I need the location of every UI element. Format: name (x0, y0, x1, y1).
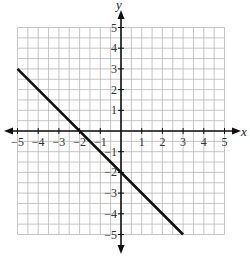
y-tick-label: 3 (111, 62, 117, 76)
x-tick-label: 5 (222, 135, 228, 149)
x-tick-label: 2 (159, 135, 165, 149)
x-axis-label: x (240, 124, 247, 139)
x-tick-label: −3 (53, 135, 66, 149)
y-tick-label: −4 (104, 207, 117, 221)
x-tick-label: 3 (180, 135, 186, 149)
x-axis-arrow-left (4, 128, 13, 135)
y-tick-label: 5 (111, 21, 117, 35)
x-tick-label: −5 (11, 135, 24, 149)
coordinate-plane: y x −5−4−3−2−11234554321−1−2−3−4−5 (0, 0, 250, 262)
y-axis-arrow-down (118, 245, 125, 254)
y-tick-label: −3 (104, 186, 117, 200)
y-tick-label: −5 (104, 228, 117, 242)
x-tick-label: 4 (201, 135, 207, 149)
y-tick-label: 4 (111, 41, 117, 55)
y-axis-label: y (114, 0, 122, 12)
x-tick-label: −4 (32, 135, 45, 149)
x-axis-arrow-right (232, 128, 241, 135)
y-tick-label: 1 (111, 103, 117, 117)
y-tick-label: 2 (111, 83, 117, 97)
x-tick-label: 1 (139, 135, 145, 149)
